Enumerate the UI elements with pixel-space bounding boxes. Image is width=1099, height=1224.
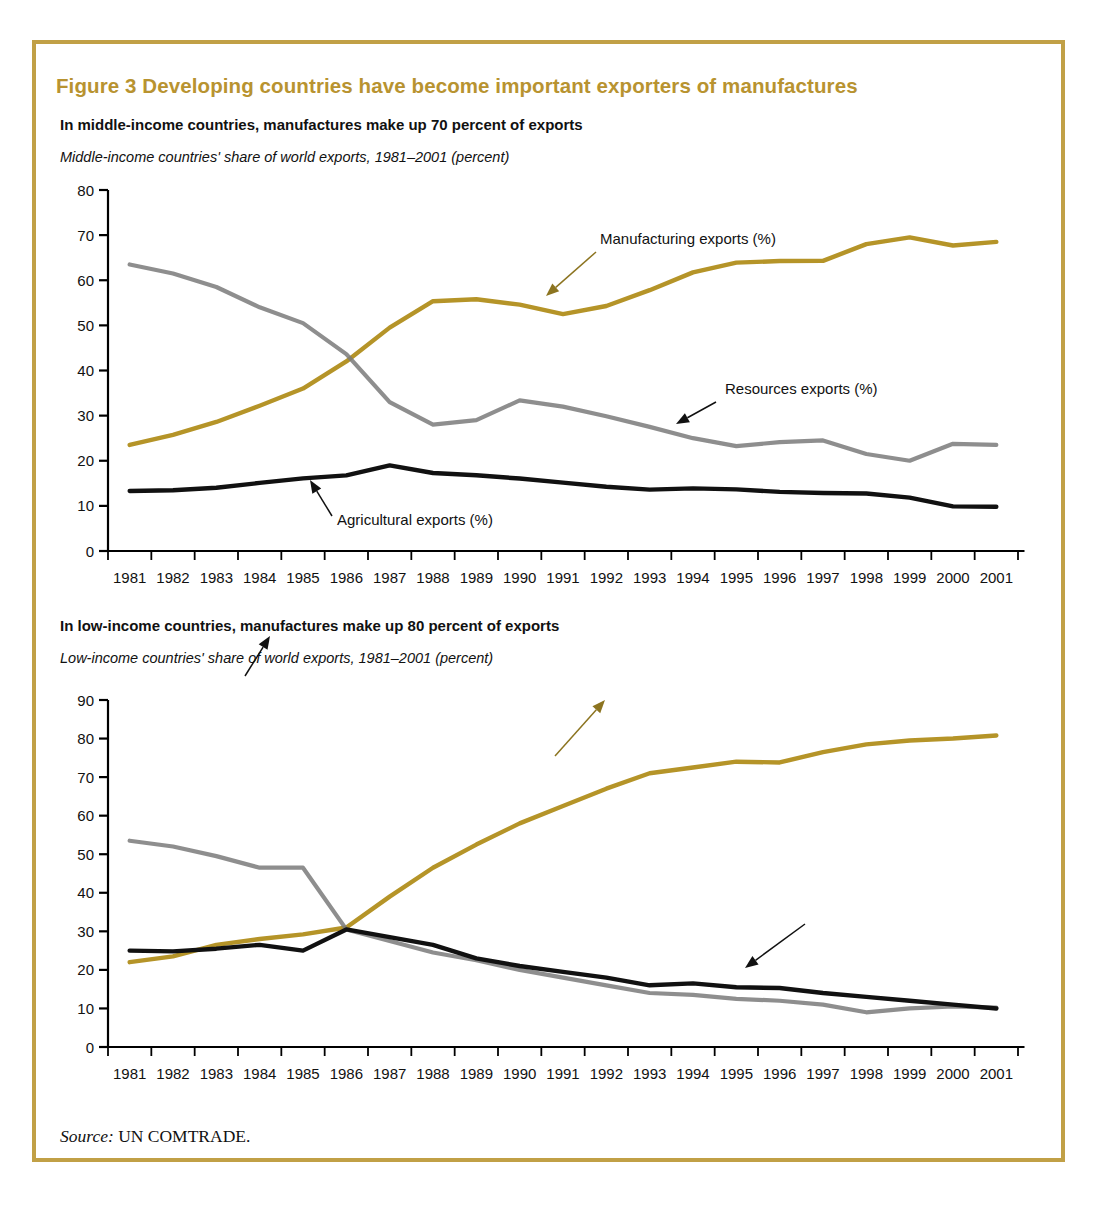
- x-tick-label: 1998: [850, 569, 883, 586]
- x-tick-label: 1988: [416, 569, 449, 586]
- series-line: [130, 841, 997, 1013]
- x-tick-label: 1998: [850, 1065, 883, 1082]
- x-tick-label: 1981: [113, 569, 146, 586]
- y-tick-label: 30: [77, 923, 94, 940]
- x-tick-label: 1986: [330, 569, 363, 586]
- x-tick-label: 1996: [763, 1065, 796, 1082]
- x-tick-label: 1982: [156, 1065, 189, 1082]
- figure-page: Figure 3 Developing countries have becom…: [0, 0, 1099, 1224]
- y-tick-label: 40: [77, 884, 94, 901]
- y-tick-label: 80: [77, 182, 94, 199]
- x-tick-label: 1995: [720, 569, 753, 586]
- x-tick-label: 1999: [893, 569, 926, 586]
- x-tick-label: 1990: [503, 1065, 536, 1082]
- x-tick-label: 1984: [243, 569, 276, 586]
- y-tick-label: 40: [77, 362, 94, 379]
- x-tick-label: 1991: [546, 569, 579, 586]
- x-tick-label: 2000: [936, 569, 969, 586]
- y-tick-label: 70: [77, 769, 94, 786]
- x-tick-label: 1983: [200, 569, 233, 586]
- y-tick-label: 10: [77, 1000, 94, 1017]
- x-tick-label: 1994: [676, 1065, 709, 1082]
- x-tick-label: 1995: [720, 1065, 753, 1082]
- x-tick-label: 1993: [633, 569, 666, 586]
- y-tick-label: 50: [77, 846, 94, 863]
- resources-arrow-2: [245, 636, 270, 676]
- y-tick-label: 90: [77, 692, 94, 709]
- x-tick-label: 1987: [373, 1065, 406, 1082]
- y-tick-label: 20: [77, 452, 94, 469]
- x-tick-label: 1984: [243, 1065, 276, 1082]
- x-tick-label: 1992: [590, 1065, 623, 1082]
- agricultural-arrow: [310, 480, 332, 516]
- x-tick-label: 1989: [460, 569, 493, 586]
- x-tick-label: 1989: [460, 1065, 493, 1082]
- series-annotation-label: Agricultural exports (%): [337, 511, 493, 528]
- y-tick-label: 10: [77, 497, 94, 514]
- x-tick-label: 1987: [373, 569, 406, 586]
- x-tick-label: 1981: [113, 1065, 146, 1082]
- x-tick-label: 1988: [416, 1065, 449, 1082]
- low-income-chart-svg: 0102030405060708090198119821983198419851…: [0, 600, 1099, 1100]
- x-tick-label: 1997: [806, 569, 839, 586]
- chart-panel-low-income: 0102030405060708090198119821983198419851…: [0, 600, 1099, 1100]
- manufacturing-arrow-2: [555, 700, 605, 756]
- x-tick-label: 1986: [330, 1065, 363, 1082]
- chart-panel-middle-income: 0102030405060708019811982198319841985198…: [0, 0, 1099, 600]
- middle-income-chart-svg: 0102030405060708019811982198319841985198…: [0, 0, 1099, 600]
- x-tick-label: 2000: [936, 1065, 969, 1082]
- y-tick-label: 0: [86, 543, 94, 560]
- y-tick-label: 60: [77, 807, 94, 824]
- source-note: Source: UN COMTRADE.: [60, 1126, 250, 1147]
- agricultural-arrow-2: [745, 924, 805, 968]
- resources-arrow: [676, 402, 716, 424]
- x-tick-label: 1982: [156, 569, 189, 586]
- y-tick-label: 60: [77, 272, 94, 289]
- series-line: [130, 237, 997, 445]
- x-tick-label: 1996: [763, 569, 796, 586]
- series-line: [130, 465, 997, 506]
- x-tick-label: 1985: [286, 1065, 319, 1082]
- source-value: UN COMTRADE.: [114, 1126, 251, 1146]
- y-tick-label: 50: [77, 317, 94, 334]
- x-tick-label: 2001: [980, 1065, 1013, 1082]
- x-tick-label: 1990: [503, 569, 536, 586]
- manufacturing-arrow: [546, 252, 596, 296]
- y-tick-label: 70: [77, 227, 94, 244]
- x-tick-label: 1991: [546, 1065, 579, 1082]
- x-tick-label: 1997: [806, 1065, 839, 1082]
- x-tick-label: 1985: [286, 569, 319, 586]
- x-tick-label: 1999: [893, 1065, 926, 1082]
- y-tick-label: 30: [77, 407, 94, 424]
- series-line: [130, 735, 997, 962]
- x-tick-label: 1992: [590, 569, 623, 586]
- y-tick-label: 20: [77, 961, 94, 978]
- series-annotation-label: Manufacturing exports (%): [600, 230, 776, 247]
- source-label: Source:: [60, 1126, 114, 1146]
- x-tick-label: 1993: [633, 1065, 666, 1082]
- y-tick-label: 80: [77, 730, 94, 747]
- x-tick-label: 1994: [676, 569, 709, 586]
- series-annotation-label: Resources exports (%): [725, 380, 878, 397]
- series-line: [130, 264, 997, 460]
- x-tick-label: 1983: [200, 1065, 233, 1082]
- x-tick-label: 2001: [980, 569, 1013, 586]
- y-tick-label: 0: [86, 1039, 94, 1056]
